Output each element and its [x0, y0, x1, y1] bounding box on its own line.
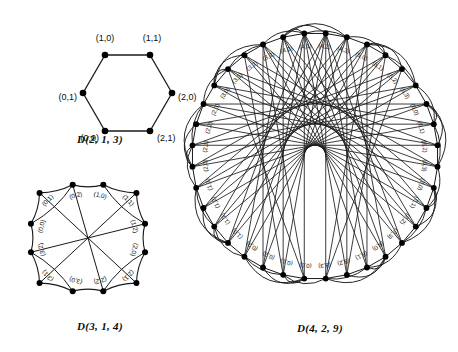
vertex-label: (5,0) — [355, 51, 369, 62]
graph-vertex — [133, 280, 139, 286]
graph-vertex — [424, 205, 430, 211]
vertex-label: (1,1) — [143, 33, 162, 43]
vertex-label: (2,2) — [93, 275, 108, 286]
panel-d314: (1,0)(1,1)(1,2)(2,0)(2,1)(2,2)(3,0)(3,1)… — [0, 170, 180, 315]
d213-vertices — [80, 52, 176, 135]
graph-vertex — [70, 288, 76, 294]
vertex-label: (1,0) — [96, 33, 115, 43]
graph-vertex — [133, 190, 139, 196]
graph-vertex — [301, 276, 307, 282]
graph-edge — [204, 208, 215, 227]
graph-vertex — [280, 34, 286, 40]
graph-edge — [283, 37, 402, 243]
graph-vertex — [201, 101, 207, 107]
graph-vertex — [431, 121, 437, 127]
vertex-label: (8,3) — [318, 262, 331, 269]
graph-edge-arc — [73, 289, 104, 291]
vertex-label: (0,2) — [68, 190, 83, 201]
graph-edge-arc — [244, 257, 304, 283]
graph-vertex — [142, 221, 148, 227]
graph-vertex — [364, 42, 370, 48]
vertex-label: (6,2) — [421, 140, 428, 153]
vertex-label: (1,3) — [204, 178, 213, 191]
graph-vertex — [193, 121, 199, 127]
graph-vertex — [225, 66, 231, 72]
d429-vertex-labels: (0,0)(0,1)(0,2)(0,3)(1,0)(1,1)(1,2)(1,3)… — [202, 43, 428, 269]
vertex-label: (6,3) — [421, 159, 428, 172]
graph-vertex — [260, 265, 266, 271]
caption-d314: D(3, 1, 4) — [30, 320, 170, 332]
graph-vertex — [364, 265, 370, 271]
graph-vertex — [344, 34, 350, 40]
graph-vertex — [70, 182, 76, 188]
graph-vertex — [413, 83, 419, 89]
caption-d213: D(2, 1, 3) — [30, 133, 170, 145]
graph-vertex — [424, 101, 430, 107]
vertex-label: (7,3) — [386, 227, 399, 240]
vertex-label: (1,2) — [129, 219, 140, 234]
graph-vertex — [431, 185, 437, 191]
graph-vertex — [242, 52, 248, 58]
d213-vertex-labels: (1,0) (1,1) (2,0) (2,1) (0,0) (0,1) — [58, 33, 196, 143]
d429-vertices — [190, 31, 441, 282]
graph-vertex — [201, 205, 207, 211]
vertex-label: (0,0) — [299, 262, 312, 269]
graph-vertex — [413, 224, 419, 230]
graph-vertex — [225, 240, 231, 246]
graph-vertex — [280, 272, 286, 278]
graph-vertex — [193, 185, 199, 191]
graph-vertex — [211, 83, 217, 89]
graph-vertex — [383, 52, 389, 58]
graph-edge — [73, 185, 104, 291]
vertex-label: (3,0) — [68, 275, 83, 286]
graph-vertex — [260, 42, 266, 48]
graph-vertex — [100, 288, 106, 294]
graph-vertex — [435, 164, 441, 170]
panel-d429: (0,0)(0,1)(0,2)(0,3)(1,0)(1,1)(1,2)(1,3)… — [178, 8, 458, 313]
graph-vertex — [37, 190, 43, 196]
graph-vertex — [37, 280, 43, 286]
graph-vertex — [383, 254, 389, 260]
graph-vertex — [190, 164, 196, 170]
graph-edge-arc — [73, 185, 104, 187]
graph-vertex — [100, 182, 106, 188]
graph-vertex — [28, 249, 34, 255]
vertex-label: (0,0) — [36, 219, 47, 234]
graph-vertex — [190, 142, 196, 148]
vertex-label: (4,1) — [299, 43, 312, 50]
graph-edge-arc — [143, 224, 145, 252]
graph-edge — [434, 167, 438, 188]
graph-vertex — [323, 31, 329, 37]
graph-vertex — [399, 66, 405, 72]
vertex-label: (2,0) — [129, 242, 140, 257]
graph-vertex — [211, 224, 217, 230]
graph-vertex — [142, 249, 148, 255]
vertex-label: (3,2) — [36, 242, 47, 257]
graph-vertex — [301, 31, 307, 37]
caption-d429: D(4, 2, 9) — [250, 322, 390, 334]
graph-vertex — [242, 254, 248, 260]
graph-edge-arc — [31, 224, 33, 252]
vertex-label: (3,3) — [262, 51, 276, 62]
vertex-label: (2,0) — [202, 159, 209, 172]
graph-vertex — [399, 240, 405, 246]
graph-edge — [416, 85, 427, 104]
vertex-label: (0,1) — [58, 92, 77, 102]
graph-edge — [386, 243, 402, 257]
vertex-label: (4,2) — [318, 43, 331, 50]
figure-canvas: (1,0) (1,1) (2,0) (2,1) (0,0) (0,1) D(2,… — [0, 0, 458, 352]
vertex-label: (2,1) — [202, 140, 209, 153]
graph-vertex — [344, 272, 350, 278]
d314-svg: (1,0)(1,1)(1,2)(2,0)(2,1)(2,2)(3,0)(3,1)… — [0, 170, 180, 315]
graph-vertex — [435, 142, 441, 148]
vertex-label: (7,1) — [409, 196, 420, 210]
d429-svg: (0,0)(0,1)(0,2)(0,3)(1,0)(1,1)(1,2)(1,3)… — [178, 8, 458, 313]
d429-edges — [184, 24, 446, 284]
d213-edges — [83, 55, 172, 131]
vertex-label: (1,2) — [210, 196, 221, 210]
vertex-label: (7,0) — [417, 178, 426, 191]
vertex-label: (1,0) — [93, 190, 108, 201]
graph-vertex — [28, 221, 34, 227]
graph-edge — [228, 55, 244, 69]
graph-vertex — [323, 276, 329, 282]
